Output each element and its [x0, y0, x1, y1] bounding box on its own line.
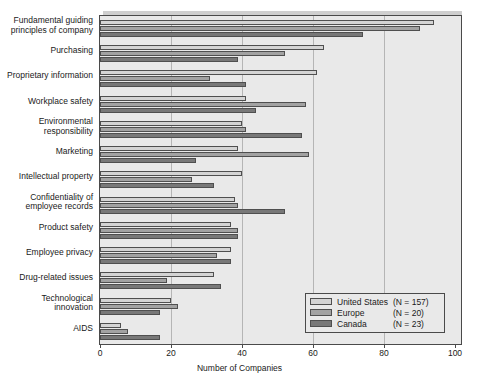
bar-eu [100, 228, 238, 233]
y-axis-label-line: Workplace safety [0, 97, 93, 107]
x-axis-tick-label: 0 [85, 348, 115, 358]
legend-label-united-states: United States [337, 297, 388, 307]
y-axis-label-line: Drug-related issues [0, 273, 93, 283]
bar-eu [100, 329, 128, 334]
y-axis-label-8: Product safety [0, 223, 93, 233]
legend-swatch-europe [310, 309, 332, 316]
y-axis-label-3: Workplace safety [0, 97, 93, 107]
legend-swatch-canada [310, 320, 332, 327]
bar-ca [100, 310, 160, 315]
y-axis-label-line: innovation [0, 303, 93, 313]
y-axis-label-line: Employee privacy [0, 248, 93, 258]
y-axis-label-line: Product safety [0, 223, 93, 233]
y-axis-label-9: Employee privacy [0, 248, 93, 258]
legend-n-canada: (N = 23) [393, 319, 424, 329]
legend-item-europe: Europe (N = 20) [310, 308, 440, 318]
bar-eu [100, 102, 306, 107]
bar-us [100, 222, 231, 227]
y-axis-labels: Fundamental guidingprinciples of company… [0, 15, 97, 345]
y-axis-label-6: Intellectual property [0, 172, 93, 182]
bar-eu [100, 51, 285, 56]
bar-us [100, 20, 434, 25]
y-axis-label-0: Fundamental guidingprinciples of company [0, 16, 93, 35]
bar-us [100, 323, 121, 328]
bar-ca [100, 158, 196, 163]
y-axis-label-1: Purchasing [0, 46, 93, 56]
y-axis-label-line: principles of company [0, 26, 93, 36]
bar-us [100, 197, 235, 202]
y-axis-label-line: responsibility [0, 127, 93, 137]
bar-group [100, 117, 461, 142]
x-axis-tick-label: 100 [440, 348, 470, 358]
y-axis-label-line: employee records [0, 202, 93, 212]
y-axis-label-11: Technologicalinnovation [0, 294, 93, 313]
legend-n-united-states: (N = 157) [393, 297, 429, 307]
y-axis-label-5: Marketing [0, 147, 93, 157]
bar-group [100, 16, 461, 41]
bar-eu [100, 253, 217, 258]
legend-item-united-states: United States (N = 157) [310, 297, 440, 307]
bar-us [100, 121, 242, 126]
y-axis-label-7: Confidentiality ofemployee records [0, 193, 93, 212]
y-axis-label-line: Marketing [0, 147, 93, 157]
bar-us [100, 298, 171, 303]
bar-ca [100, 108, 256, 113]
bar-us [100, 45, 324, 50]
bar-group [100, 92, 461, 117]
bar-ca [100, 259, 231, 264]
bar-ca [100, 209, 285, 214]
bar-ca [100, 57, 238, 62]
bar-chart-figure: Fundamental guidingprinciples of company… [0, 0, 479, 384]
bar-ca [100, 82, 246, 87]
bar-ca [100, 335, 160, 340]
bar-eu [100, 26, 420, 31]
y-axis-label-4: Environmentalresponsibility [0, 117, 93, 136]
x-axis-title: Number of Companies [0, 363, 479, 373]
bar-eu [100, 304, 178, 309]
y-axis-label-line: Proprietary information [0, 71, 93, 81]
bar-us [100, 171, 242, 176]
bar-ca [100, 234, 238, 239]
bar-group [100, 66, 461, 91]
legend-n-europe: (N = 20) [393, 308, 424, 318]
bar-group [100, 167, 461, 192]
legend-swatch-united-states [310, 298, 332, 305]
bar-group [100, 142, 461, 167]
figure-top-caption [86, 0, 386, 7]
y-axis-label-line: AIDS [0, 324, 93, 334]
bar-ca [100, 284, 221, 289]
y-axis-label-10: Drug-related issues [0, 273, 93, 283]
bar-ca [100, 32, 363, 37]
bar-group [100, 41, 461, 66]
bar-eu [100, 278, 167, 283]
bar-us [100, 146, 238, 151]
bar-group [100, 193, 461, 218]
bar-us [100, 96, 246, 101]
legend-item-canada: Canada (N = 23) [310, 319, 440, 329]
x-axis-tick-label: 40 [227, 348, 257, 358]
y-axis-label-line: Intellectual property [0, 172, 93, 182]
bar-ca [100, 183, 214, 188]
bar-group [100, 243, 461, 268]
y-axis-label-line: Purchasing [0, 46, 93, 56]
bar-ca [100, 133, 302, 138]
y-axis-label-2: Proprietary information [0, 71, 93, 81]
bar-us [100, 70, 317, 75]
bar-group [100, 268, 461, 293]
bar-us [100, 272, 214, 277]
bar-us [100, 247, 231, 252]
bar-eu [100, 152, 309, 157]
x-axis-tick-label: 80 [369, 348, 399, 358]
legend-label-canada: Canada [337, 319, 367, 329]
bar-eu [100, 203, 238, 208]
chart-legend: United States (N = 157) Europe (N = 20) … [305, 293, 445, 333]
bar-eu [100, 127, 246, 132]
x-axis-tick-label: 20 [156, 348, 186, 358]
x-axis-tick-label: 60 [298, 348, 328, 358]
bar-group [100, 218, 461, 243]
bar-eu [100, 76, 210, 81]
legend-label-europe: Europe [337, 308, 364, 318]
bar-eu [100, 177, 192, 182]
y-axis-label-12: AIDS [0, 324, 93, 334]
